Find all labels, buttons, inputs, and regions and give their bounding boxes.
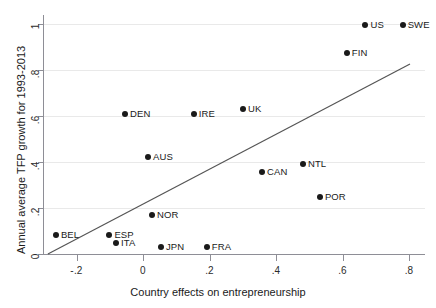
data-point xyxy=(106,232,112,238)
data-point-label: BEL xyxy=(61,229,79,240)
data-point-label: NTL xyxy=(308,158,326,169)
data-point-label: CAN xyxy=(267,166,287,177)
data-point xyxy=(158,244,164,250)
y-axis-tick-label: .2 xyxy=(31,208,42,217)
data-point-label: ITA xyxy=(121,237,135,248)
data-point-label: UK xyxy=(248,103,261,114)
data-point xyxy=(149,212,155,218)
x-axis-tick xyxy=(409,255,410,261)
x-axis-tick xyxy=(343,255,344,261)
y-axis-tick-label: .8 xyxy=(31,70,42,79)
x-axis-title: Country effects on entrepreneurship xyxy=(0,286,436,298)
x-axis-tick-label: .8 xyxy=(389,265,429,276)
data-point xyxy=(122,111,128,117)
x-axis-tick-label: .2 xyxy=(190,265,230,276)
data-point xyxy=(113,240,119,246)
x-axis-line xyxy=(44,254,425,255)
y-axis-title: Annual average TFP growth for 1993-2013 xyxy=(15,46,27,254)
gridline xyxy=(44,208,425,209)
y-axis-tick-label: .6 xyxy=(31,116,42,125)
data-point xyxy=(240,106,246,112)
x-axis-tick xyxy=(276,255,277,261)
x-axis-tick xyxy=(210,255,211,261)
data-point-label: POR xyxy=(325,191,346,202)
data-point xyxy=(204,244,210,250)
scatter-plot-figure: 0.2.4.6.81 -.20.2.4.6.8 BELESPITADENAUSN… xyxy=(0,0,436,308)
data-point xyxy=(344,50,350,56)
gridline xyxy=(44,70,425,71)
data-point-label: AUS xyxy=(153,151,173,162)
x-axis-tick-label: .6 xyxy=(323,265,363,276)
data-point xyxy=(362,22,368,28)
data-point xyxy=(53,232,59,238)
data-point-label: FRA xyxy=(212,241,231,252)
x-axis-tick-label: .4 xyxy=(256,265,296,276)
gridline xyxy=(44,116,425,117)
data-point-label: IRE xyxy=(199,108,215,119)
x-axis-tick xyxy=(77,255,78,261)
data-point xyxy=(259,169,265,175)
y-axis-line xyxy=(43,15,44,255)
data-point-label: SWE xyxy=(408,19,430,30)
gridline xyxy=(44,162,425,163)
data-point-label: NOR xyxy=(157,209,178,220)
data-point-label: JPN xyxy=(166,241,184,252)
data-point xyxy=(400,22,406,28)
data-point xyxy=(317,194,323,200)
data-point-label: DEN xyxy=(130,108,150,119)
y-axis-tick-label: 0 xyxy=(31,254,42,260)
data-point-label: FIN xyxy=(352,47,368,58)
y-axis-tick-label: .4 xyxy=(31,162,42,171)
x-axis-tick-label: 0 xyxy=(123,265,163,276)
x-axis-tick xyxy=(143,255,144,261)
data-point xyxy=(300,161,306,167)
data-point-label: US xyxy=(370,19,383,30)
fitted-regression-line xyxy=(0,0,436,308)
y-axis-tick-label: 1 xyxy=(31,24,42,30)
x-axis-tick-label: -.2 xyxy=(57,265,97,276)
data-point xyxy=(145,154,151,160)
data-point xyxy=(191,111,197,117)
